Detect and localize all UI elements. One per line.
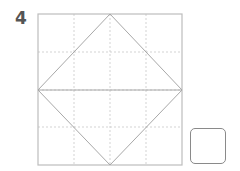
answer-box[interactable] xyxy=(190,128,226,164)
